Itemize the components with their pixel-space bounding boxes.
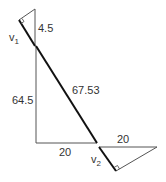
vertical-side-label: 64.5 (12, 94, 33, 106)
hypotenuse-label: 67.53 (72, 84, 100, 96)
bottom-top-label: 20 (117, 133, 129, 145)
bottom-triangle (99, 147, 157, 171)
top-triangle-top-side (19, 9, 35, 20)
top-side-label: 4.5 (38, 22, 53, 34)
v1-label: v1 (9, 31, 20, 46)
v1-vector-line (19, 20, 35, 46)
v2-label: v2 (91, 153, 102, 168)
top-triangle (19, 9, 35, 46)
right-angle-mark-top (21, 19, 24, 24)
vector-diagram: 4.5 v1 64.5 67.53 20 20 v2 (0, 0, 166, 182)
base-label: 20 (59, 146, 71, 158)
v2-vector-line (99, 147, 116, 171)
bottom-hypotenuse-side (116, 147, 157, 171)
